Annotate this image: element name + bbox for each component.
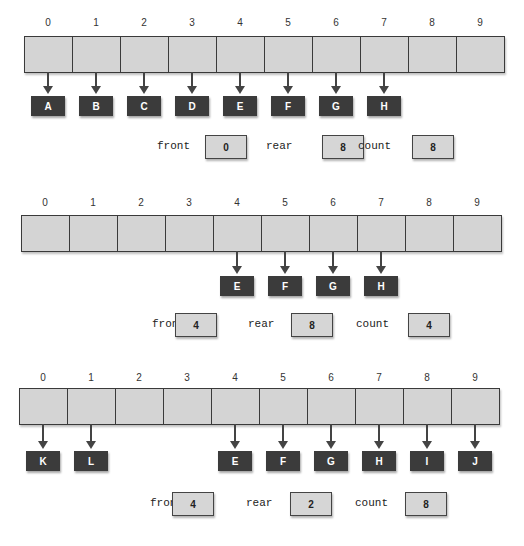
array-cell [452,389,499,424]
array-cell [260,389,308,424]
array-cell [116,389,164,424]
array-index-label: 9 [456,17,504,28]
front-value-box: 0 [205,135,247,159]
queue-element-node: C [127,96,161,116]
array-index-label: 2 [117,197,165,208]
array-cell [358,216,406,251]
array-cell [310,216,358,251]
array-cell [22,216,70,251]
array-index-label: 7 [357,197,405,208]
array-cell [265,37,313,72]
queue-element-node: H [362,451,396,471]
array-cell [262,216,310,251]
array-index-label: 5 [259,372,307,383]
array-index-label: 5 [264,17,312,28]
front-label: front [157,140,190,152]
down-arrow-icon [280,251,290,274]
count-value-box: 4 [408,313,450,337]
array-cell [409,37,457,72]
down-arrow-icon [283,72,293,94]
queue-element-node: F [266,451,300,471]
array-index-label: 5 [261,197,309,208]
queue-element-node: E [223,96,257,116]
down-arrow-icon [43,72,53,94]
array-cell [70,216,118,251]
queue-element-node: E [218,451,252,471]
queue-element-node: A [31,96,65,116]
down-arrow-icon [379,72,389,94]
down-arrow-icon [232,251,242,274]
count-value-box: 8 [412,135,454,159]
array-cell [454,216,501,251]
down-arrow-icon [422,424,432,449]
queue-element-node: D [175,96,209,116]
down-arrow-icon [91,72,101,94]
array-cell [20,389,68,424]
down-arrow-icon [376,251,386,274]
array-cell [212,389,260,424]
queue-array [19,388,500,425]
queue-array [21,215,502,252]
down-arrow-icon [139,72,149,94]
array-index-label: 3 [163,372,211,383]
down-arrow-icon [374,424,384,449]
rear-value-box: 8 [291,313,333,337]
queue-element-node: F [268,276,302,296]
count-label: count [356,318,389,330]
array-index-label: 8 [408,17,456,28]
rear-label: rear [248,318,274,330]
down-arrow-icon [38,424,48,449]
array-index-label: 2 [115,372,163,383]
down-arrow-icon [470,424,480,449]
array-cell [166,216,214,251]
down-arrow-icon [235,72,245,94]
array-index-label: 1 [72,17,120,28]
down-arrow-icon [328,251,338,274]
array-index-label: 9 [451,372,499,383]
down-arrow-icon [326,424,336,449]
array-cell [25,37,73,72]
array-index-label: 4 [213,197,261,208]
queue-element-node: H [364,276,398,296]
rear-value-box: 2 [290,492,332,516]
down-arrow-icon [187,72,197,94]
array-index-label: 1 [67,372,115,383]
array-index-label: 2 [120,17,168,28]
array-cell [308,389,356,424]
array-index-label: 7 [360,17,408,28]
array-cell [356,389,404,424]
array-cell [121,37,169,72]
array-cell [214,216,262,251]
queue-element-node: K [26,451,60,471]
queue-element-node: H [367,96,401,116]
array-index-label: 0 [21,197,69,208]
queue-element-node: G [319,96,353,116]
queue-element-node: B [79,96,113,116]
array-index-label: 0 [19,372,67,383]
down-arrow-icon [230,424,240,449]
count-label: count [355,497,388,509]
front-value-box: 4 [172,492,214,516]
array-index-label: 6 [309,197,357,208]
array-index-label: 0 [24,17,72,28]
queue-element-node: E [220,276,254,296]
array-cell [217,37,265,72]
front-value-box: 4 [175,313,217,337]
down-arrow-icon [331,72,341,94]
array-index-label: 8 [403,372,451,383]
queue-element-node: I [410,451,444,471]
array-cell [313,37,361,72]
count-label: count [358,140,391,152]
queue-array [24,36,505,73]
down-arrow-icon [86,424,96,449]
count-value-box: 8 [405,492,447,516]
array-index-label: 1 [69,197,117,208]
array-cell [169,37,217,72]
array-cell [406,216,454,251]
array-cell [73,37,121,72]
array-index-label: 9 [453,197,501,208]
array-index-label: 3 [165,197,213,208]
queue-element-node: G [316,276,350,296]
queue-element-node: L [74,451,108,471]
queue-element-node: J [458,451,492,471]
